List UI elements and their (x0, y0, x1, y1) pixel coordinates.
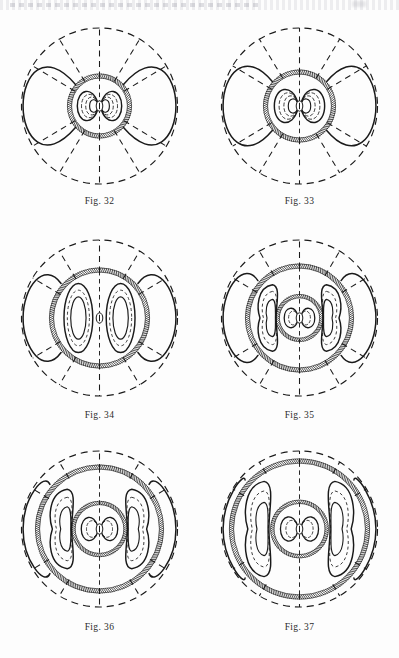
figure-cell-fig32: Fig. 32 (0, 10, 199, 226)
figure-caption-fig34: Fig. 34 (0, 410, 199, 420)
figure-drawing-fig32 (0, 10, 199, 210)
figure-grid: Fig. 32 Fig. 33 Fig. 34 Fig. 35 Fig. 36 … (0, 10, 399, 658)
nucleus-marker (96, 313, 103, 323)
figure-cell-fig35: Fig. 35 (200, 222, 399, 438)
figure-drawing-fig34 (0, 222, 199, 422)
figure-cell-fig36: Fig. 36 (0, 433, 199, 649)
nucleus-marker (96, 524, 103, 534)
figure-page: Fig. 32 Fig. 33 Fig. 34 Fig. 35 Fig. 36 … (0, 0, 399, 658)
figure-drawing-fig33 (200, 10, 399, 210)
nucleus-marker (296, 313, 303, 323)
figure-caption-fig32: Fig. 32 (0, 196, 199, 206)
nucleus-marker (296, 101, 303, 111)
figure-cell-fig34: Fig. 34 (0, 222, 199, 438)
figure-caption-fig37: Fig. 37 (200, 622, 399, 632)
figure-cell-fig37: Fig. 37 (200, 433, 399, 649)
figure-caption-fig33: Fig. 33 (200, 196, 399, 206)
figure-drawing-fig37 (200, 433, 399, 633)
header-bleed-artifact-3 (352, 1, 366, 7)
header-bleed-artifact-2 (10, 3, 260, 7)
figure-drawing-fig35 (200, 222, 399, 422)
figure-cell-fig33: Fig. 33 (200, 10, 399, 226)
nucleus-marker (296, 524, 303, 534)
figure-caption-fig35: Fig. 35 (200, 410, 399, 420)
figure-caption-fig36: Fig. 36 (0, 622, 199, 632)
figure-drawing-fig36 (0, 433, 199, 633)
nucleus-marker (96, 101, 103, 111)
